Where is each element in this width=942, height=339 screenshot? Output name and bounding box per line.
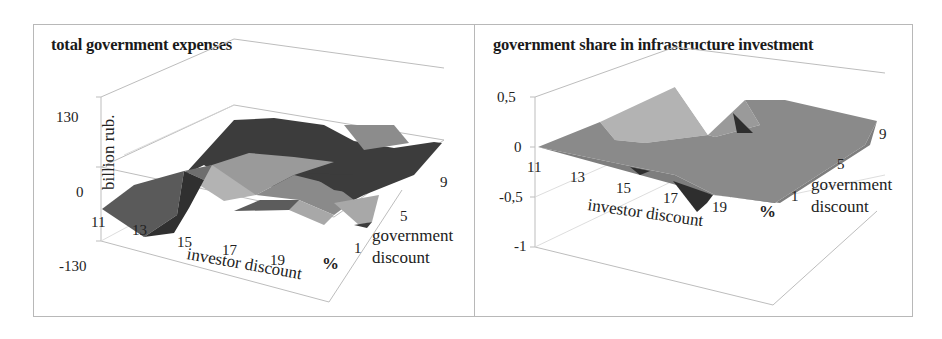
y-tick: 5 [837,156,845,172]
z-tick: 130 [56,109,79,125]
surface-plot-government-share: 0,5 0 -0,5 -1 11 13 15 17 19 % investor … [475,25,914,318]
z-tick: 0,5 [497,89,516,105]
y-axis-label: discount [811,197,869,216]
chart-panel-total-expenses: total government expenses [33,24,475,317]
x-tick: 11 [527,159,541,175]
z-tick: 0 [76,184,84,200]
x-tick: 15 [616,180,631,196]
y-tick: 9 [879,126,887,142]
x-axis-label: investor discount [185,244,303,283]
chart-panel-government-share: government share in infrastructure inves… [474,24,913,317]
z-tick: -130 [59,258,87,274]
surface-plot-expenses: 130 0 -130 billion rub. 11 13 15 17 19 %… [34,25,476,318]
y-tick: 5 [400,208,408,224]
y-axis-label: discount [372,248,430,267]
x-tick-unit: % [759,202,776,221]
x-tick: 17 [663,190,679,206]
y-axis-label: government [811,175,892,194]
x-tick: 13 [132,222,147,238]
surface-mesh [102,118,442,237]
x-tick: 19 [712,199,727,215]
z-tick: 0 [514,139,522,155]
z-tick: -1 [514,238,527,254]
z-tick: -0,5 [499,189,523,205]
y-axis-label: government [372,226,453,245]
y-tick: 9 [440,174,448,190]
x-axis-label: investor discount [586,195,704,230]
y-tick: 1 [354,240,362,256]
z-axis-label: billion rub. [99,114,118,190]
x-tick: 13 [570,169,585,185]
x-tick: 11 [91,214,105,230]
x-tick-unit: % [322,254,339,273]
y-tick: 1 [791,188,799,204]
